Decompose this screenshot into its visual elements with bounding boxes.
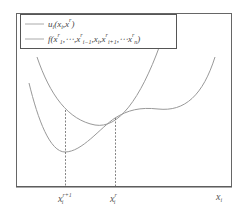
tick-label-x-r-plus-1: xr+1i bbox=[58, 192, 64, 205]
tick-label-x-r: xri bbox=[110, 192, 115, 205]
x-axis-label: xi bbox=[216, 191, 222, 203]
legend-label-u: ui(xi,xr) bbox=[48, 17, 74, 30]
legend-label-f: f(xr1,⋯,xri−1,xi,xri+1,⋯xrn) bbox=[48, 32, 140, 45]
curve-f bbox=[29, 57, 215, 152]
curve-u bbox=[37, 45, 160, 125]
